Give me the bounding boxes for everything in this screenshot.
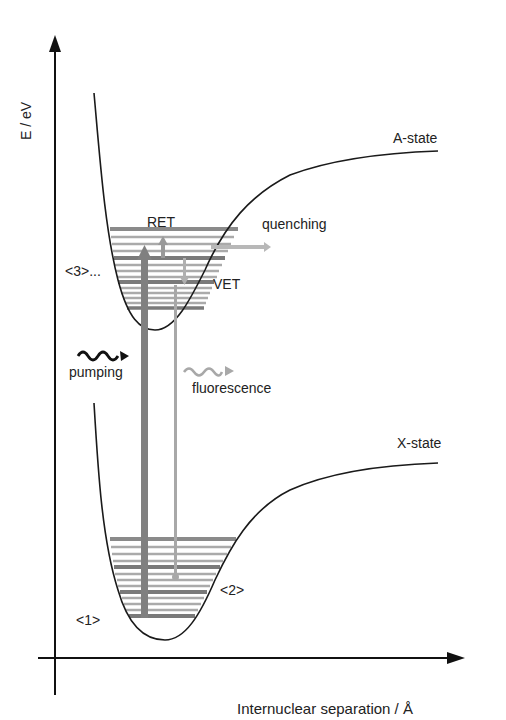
x-axis-arrow-icon [447, 652, 465, 664]
quenching-label: quenching [262, 217, 327, 231]
x-axis-label: Internuclear separation / Å [237, 701, 413, 716]
fluorescence-wave-icon [184, 366, 234, 376]
level-marker-2: <2> [220, 583, 244, 597]
y-axis-label: E / eV [18, 102, 34, 140]
level-marker-1: <1> [76, 613, 100, 627]
fluorescence-arrow [172, 285, 179, 581]
ret-label: RET [147, 215, 175, 229]
level-marker-3: <3>... [65, 264, 101, 278]
a-state-label: A-state [393, 131, 437, 145]
vet-label: VET [213, 277, 240, 291]
fluorescence-label: fluorescence [192, 381, 271, 395]
y-axis-arrow-icon [49, 35, 61, 52]
pumping-wave-icon [78, 351, 129, 361]
x-state-label: X-state [397, 436, 441, 450]
ret-arrow [158, 236, 168, 258]
pumping-label: pumping [69, 365, 123, 379]
